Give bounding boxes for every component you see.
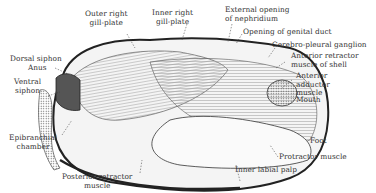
- label-anterior-retractor: Anterior retractor muscle of shell: [291, 52, 359, 69]
- label-posterior-retractor: Posterior retractor muscle: [62, 173, 132, 190]
- label-anus: Anus: [28, 64, 47, 73]
- label-mouth: Mouth: [296, 96, 321, 105]
- anatomy-diagram: Outer right gill-plate Inner right gill-…: [0, 0, 376, 193]
- label-outer-right-gill-plate: Outer right gill-plate: [85, 10, 127, 27]
- label-external-opening-nephridium: External opening of nephridium: [225, 6, 290, 23]
- label-cerebro-pleural-ganglion: Cerebro-pleural ganglion: [272, 41, 367, 50]
- label-opening-genital-duct: Opening of genital duct: [243, 28, 332, 37]
- label-anterior-adductor: Anterior adductor muscle: [296, 72, 330, 98]
- label-inner-labial-palp: Inner labial palp: [235, 166, 297, 175]
- label-ventral-siphon: Ventral siphon: [14, 78, 41, 95]
- label-protractor-muscle: Protractor muscle: [279, 153, 347, 162]
- label-inner-right-gill-plate: Inner right gill-plate: [152, 9, 193, 26]
- label-foot: Foot: [310, 137, 327, 146]
- label-epibranchial-chamber: Epibranchial chamber: [9, 134, 57, 151]
